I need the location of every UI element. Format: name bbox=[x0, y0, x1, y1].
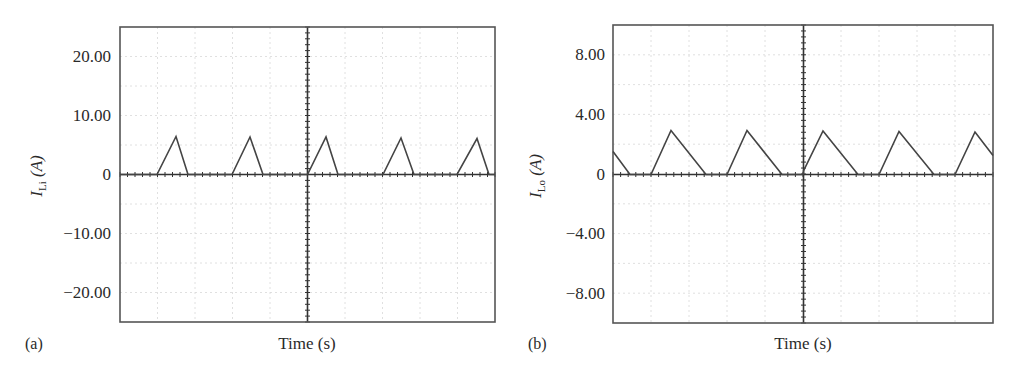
y-tick-labels-b: 8.00 4.00 0 −4.00 −8.00 bbox=[566, 45, 605, 303]
y-tick-neg4: −4.00 bbox=[566, 224, 605, 243]
figure: 20.00 10.00 0 −10.00 −20.00 ILi (A) Time… bbox=[0, 0, 1023, 377]
y-tick-neg10: −10.00 bbox=[63, 224, 111, 243]
y-tick-0: 0 bbox=[103, 165, 112, 184]
y-tick-neg8: −8.00 bbox=[566, 284, 605, 303]
y-tick-labels-a: 20.00 10.00 0 −10.00 −20.00 bbox=[63, 47, 111, 302]
panel-label-b: (b) bbox=[528, 335, 547, 353]
y-tick-0-b: 0 bbox=[597, 165, 606, 184]
y-tick-8: 8.00 bbox=[575, 45, 605, 64]
y-axis-title-b: ILo (A) bbox=[526, 154, 547, 199]
x-axis-title-a: Time (s) bbox=[278, 334, 335, 353]
panel-label-a: (a) bbox=[25, 335, 43, 353]
y-tick-10: 10.00 bbox=[73, 106, 111, 125]
y-axis-title-a: ILi (A) bbox=[27, 155, 48, 198]
y-tick-neg20: −20.00 bbox=[63, 283, 111, 302]
y-tick-20: 20.00 bbox=[73, 47, 111, 66]
panel-a: 20.00 10.00 0 −10.00 −20.00 ILi (A) Time… bbox=[25, 27, 495, 353]
panel-b: 8.00 4.00 0 −4.00 −8.00 ILo (A) Time (s)… bbox=[526, 25, 993, 353]
x-axis-title-b: Time (s) bbox=[774, 334, 831, 353]
y-tick-4: 4.00 bbox=[575, 105, 605, 124]
